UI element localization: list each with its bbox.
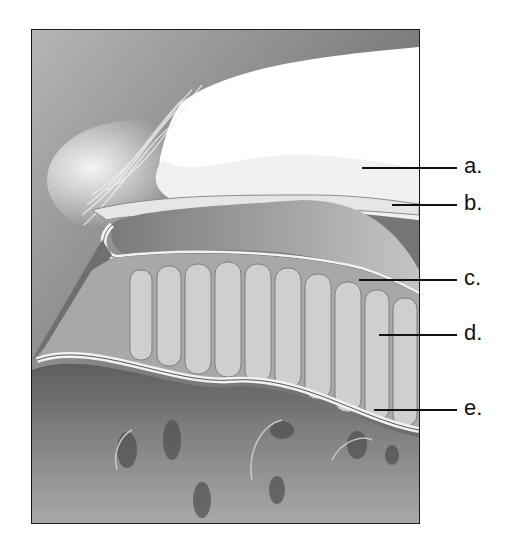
leader-line-e (374, 409, 457, 411)
leader-line-c (359, 279, 457, 281)
label-a: a. (464, 155, 482, 177)
label-e: e. (464, 397, 482, 419)
leader-line-d (379, 334, 457, 336)
label-c: c. (464, 267, 481, 289)
anatomy-illustration (32, 30, 419, 523)
label-b: b. (464, 192, 482, 214)
leader-line-a (362, 167, 457, 169)
label-d: d. (464, 322, 482, 344)
illustration-frame (31, 29, 420, 524)
leader-line-b (392, 204, 457, 206)
